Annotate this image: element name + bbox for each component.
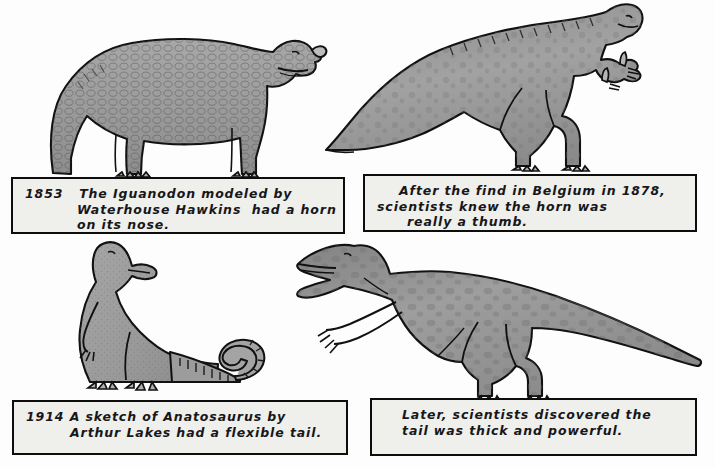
iguanodon-quadruped-body (51, 39, 321, 174)
caption-line: After the find in Belgium in 1878, (377, 183, 685, 199)
caption-line: on its nose. (25, 217, 333, 233)
caption-line: Arthur Lakes had a flexible tail. (26, 425, 336, 441)
caption-box-bottom-left: 1914 A sketch of Anatosaurus by Arthur L… (12, 400, 348, 455)
caption-box-bottom-right: Later, scientists discovered the tail wa… (370, 398, 697, 456)
figure-anatosaurus-horizontal-with-thick-tail (292, 238, 707, 401)
caption-line: really a thumb. (377, 214, 685, 230)
caption-box-top-right: After the find in Belgium in 1878, scien… (363, 174, 697, 232)
caption-line: tail was thick and powerful. (384, 423, 685, 439)
thumb-spike-upper (620, 52, 627, 66)
dinosaur-illustration-page: 1853 The Iguanodon modeled by Waterhouse… (0, 0, 715, 467)
figure-iguanodon-quadruped-with-nose-horn (20, 8, 340, 180)
caption-line: Waterhouse Hawkins had a horn (25, 202, 333, 218)
caption-line: Later, scientists discovered the (384, 407, 685, 423)
iguanodon-biped-body (326, 4, 643, 166)
caption-box-top-left: 1853 The Iguanodon modeled by Waterhouse… (11, 177, 345, 234)
figure-anatosaurus-upright-with-flexible-tail (22, 240, 312, 403)
caption-line: 1853 The Iguanodon modeled by (25, 186, 333, 202)
caption-line: scientists knew the horn was (377, 199, 685, 215)
caption-line: 1914 A sketch of Anatosaurus by (26, 409, 336, 425)
figure-iguanodon-biped-with-thumb-spike (322, 0, 702, 178)
